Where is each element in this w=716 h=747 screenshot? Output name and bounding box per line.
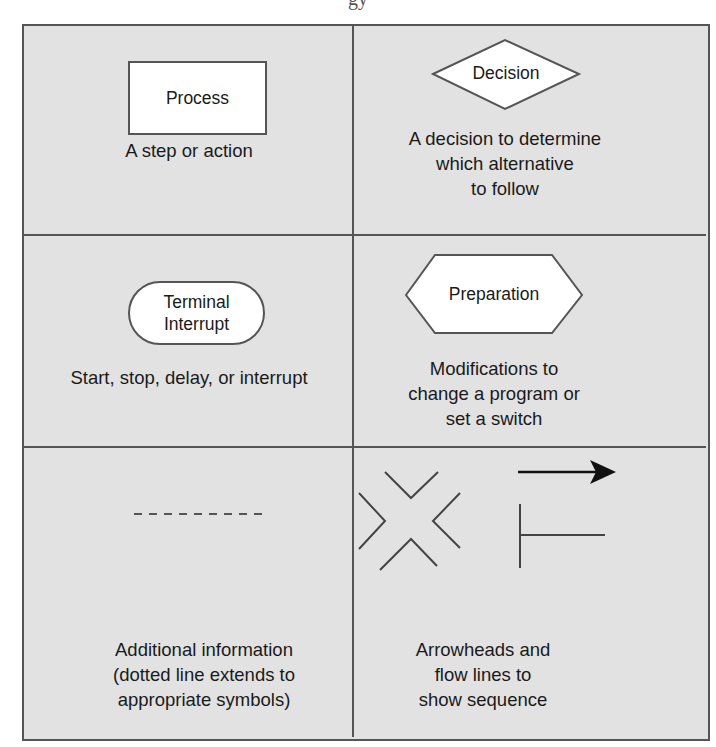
process-label: Process (128, 87, 267, 109)
flow-description: Arrowheads and flow lines to show sequen… (354, 637, 612, 712)
preparation-description: Modifications to change a program or set… (354, 356, 634, 431)
flow-line-junction-icon (520, 504, 605, 568)
page-title-fragment: gy (0, 0, 716, 8)
terminal-label: Terminal Interrupt (128, 291, 265, 335)
preparation-label: Preparation (406, 283, 582, 305)
cell-preparation: Preparation Modifications to change a pr… (354, 236, 706, 448)
cell-process: Process A step or action (24, 26, 354, 236)
cell-terminal: Terminal Interrupt Start, stop, delay, o… (24, 236, 354, 448)
decision-label: Decision (433, 62, 579, 84)
process-description: A step or action (24, 138, 354, 163)
cell-decision: Decision A decision to determine which a… (354, 26, 706, 236)
cell-annotation: Additional information (dotted line exte… (24, 448, 354, 737)
cell-flow-lines: Arrowheads and flow lines to show sequen… (354, 448, 706, 737)
terminal-description: Start, stop, delay, or interrupt (24, 365, 354, 390)
flowchart-symbols-table: Process A step or action Decision A deci… (22, 24, 710, 741)
decision-description: A decision to determine which alternativ… (354, 126, 656, 201)
annotation-description: Additional information (dotted line exte… (24, 637, 384, 712)
right-arrow-icon (518, 460, 616, 484)
converging-arrowheads-icon (359, 472, 460, 570)
